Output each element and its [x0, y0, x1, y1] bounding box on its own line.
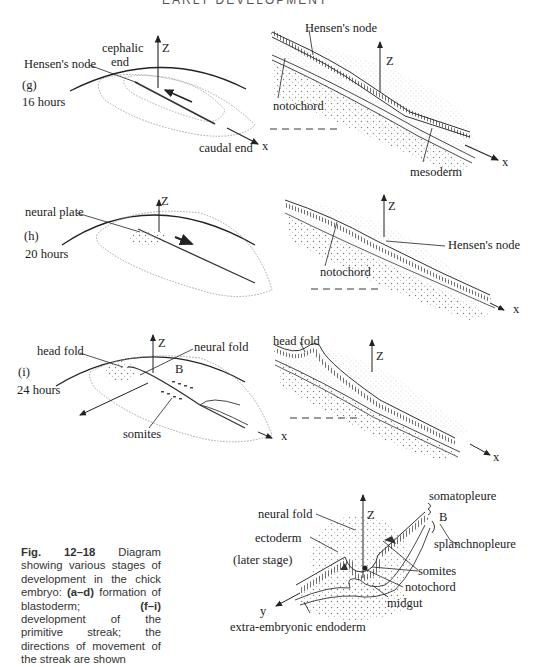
label-notochord-h: notochord: [320, 266, 371, 279]
label-b-later: B: [439, 511, 447, 524]
label-caudal-end: caudal end: [199, 142, 253, 155]
axis-y-later: y: [260, 605, 266, 618]
label-hensens-node-g-section: Hensen's node: [305, 22, 377, 35]
panel-h-whole-embryo: [62, 200, 272, 297]
label-notochord-later: notochord: [405, 581, 456, 594]
caption-fig-number: Fig. 12–18: [21, 546, 95, 558]
axis-z-h: Z: [161, 195, 169, 208]
caption-range-2: (f–i): [140, 600, 161, 612]
label-head-fold-i: head fold: [37, 345, 84, 358]
label-somatopleure: somatopleure: [429, 490, 496, 503]
label-later-stage: (later stage): [233, 554, 292, 567]
axis-z-g-section: Z: [386, 55, 394, 68]
axis-z-g: Z: [162, 42, 170, 55]
axis-x-i: x: [281, 430, 287, 443]
axis-x-g: x: [262, 140, 268, 153]
time-i: 24 hours: [17, 384, 60, 397]
panel-id-g: (g): [22, 79, 37, 92]
label-somites-later: somites: [418, 565, 456, 578]
label-head-fold-i-section: head fold: [273, 335, 320, 348]
label-cephalic: cephalic: [102, 42, 144, 55]
axis-x-h-section: x: [513, 303, 519, 316]
caption-range-1: (a–d): [67, 586, 94, 598]
label-somites-i: somites: [123, 428, 161, 441]
axis-x-i-section: x: [493, 451, 499, 464]
caption-text-3: development of the primitive streak; the…: [21, 613, 161, 665]
label-mesoderm: mesoderm: [410, 166, 462, 179]
label-notochord-g: notochord: [273, 100, 324, 113]
time-g: 16 hours: [22, 96, 65, 109]
label-neural-fold-i: neural fold: [194, 341, 249, 354]
label-extra-embryonic-endoderm: extra-embryonic endoderm: [230, 621, 366, 634]
axis-z-i: Z: [158, 337, 166, 350]
label-hensens-node-g: Hensen's node: [24, 58, 96, 71]
axis-z-i-section: Z: [376, 350, 384, 363]
panel-h-section: [285, 195, 504, 320]
label-b-i: B: [175, 363, 183, 376]
axis-z-h-section: Z: [388, 200, 396, 213]
panel-id-h: (h): [24, 230, 39, 243]
label-midgut: midgut: [387, 597, 422, 610]
label-cephalic-end: end: [111, 56, 129, 69]
axis-x-g-section: x: [502, 156, 508, 169]
label-ectoderm: ectoderm: [255, 532, 302, 545]
figure-caption: Fig. 12–18 Diagram showing various stage…: [21, 546, 161, 667]
label-neural-plate: neural plate: [25, 206, 84, 219]
axis-z-later: Z: [367, 509, 375, 522]
label-neural-fold-later: neural fold: [258, 508, 313, 521]
time-h: 20 hours: [25, 248, 68, 261]
panel-id-i: (i): [18, 366, 30, 379]
label-splanchnopleure: splanchnopleure: [434, 538, 516, 551]
label-hensens-node-h: Hensen's node: [448, 239, 520, 252]
